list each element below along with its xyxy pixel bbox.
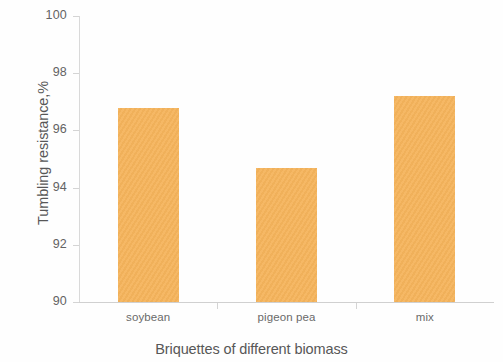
x-axis-tick	[217, 303, 218, 309]
plot-area	[79, 16, 494, 302]
y-axis-tick-label: 94	[33, 180, 67, 194]
y-axis-tick	[73, 302, 79, 303]
y-axis-tick-label: 92	[33, 237, 67, 251]
bar-chart-figure: Tumbling resistance,% 9092949698100 soyb…	[0, 0, 503, 362]
x-axis-tick	[356, 303, 357, 309]
x-axis-tick-label: pigeon pea	[217, 311, 355, 323]
bar-soybean	[118, 108, 179, 302]
x-axis-line	[79, 302, 494, 303]
x-axis-tick-label: mix	[356, 311, 494, 323]
y-axis-tick-label: 96	[33, 122, 67, 136]
y-axis-tick-label: 90	[33, 294, 67, 308]
y-axis-tick-label: 100	[33, 8, 67, 22]
y-axis-tick-label: 98	[33, 65, 67, 79]
x-axis-title: Briquettes of different biomass	[0, 341, 503, 357]
bar-pigeon-pea	[256, 168, 317, 302]
bar-mix	[394, 96, 455, 302]
x-axis-tick-label: soybean	[79, 311, 217, 323]
